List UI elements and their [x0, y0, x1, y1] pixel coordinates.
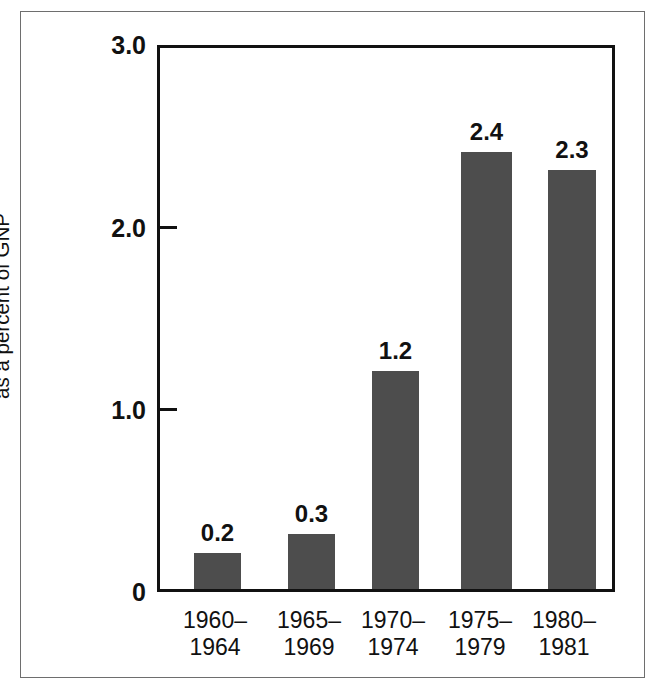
- x-label-1960-1964-line-1: 1960–: [164, 607, 266, 634]
- y-axis-tick-labels: 3.0 2.0 1.0 0: [0, 0, 146, 692]
- x-label-1960-1964-line-2: 1964: [164, 634, 266, 661]
- x-label-1980-1981-line-2: 1981: [513, 634, 615, 661]
- x-label-1980-1981: 1980– 1981: [513, 607, 615, 661]
- bar-1975-1979: [461, 152, 512, 589]
- x-label-1960-1964: 1960– 1964: [164, 607, 266, 661]
- y-tick-label-1: 1.0: [111, 398, 146, 423]
- bar-value-1960-1964: 0.2: [194, 521, 241, 545]
- bar-value-1980-1981: 2.3: [548, 138, 596, 162]
- y-tick-label-3: 3.0: [111, 33, 146, 58]
- axis-left-spine: [157, 45, 160, 592]
- y-tick-mark-2: [160, 226, 177, 229]
- y-tick-mark-1: [160, 408, 177, 411]
- bar-1970-1974: [372, 371, 419, 589]
- bar-value-1975-1979: 2.4: [461, 120, 512, 144]
- axis-bottom-rule: [157, 589, 615, 592]
- bar-value-1965-1969: 0.3: [288, 502, 335, 526]
- bar-value-1970-1974: 1.2: [372, 339, 419, 363]
- plot-area: 0.2 0.3 1.2 2.4 2.3: [157, 45, 615, 592]
- axis-right-spine: [612, 45, 615, 592]
- y-tick-label-2: 2.0: [111, 216, 146, 241]
- bar-1980-1981: [548, 170, 596, 589]
- axis-top-rule: [157, 45, 615, 48]
- x-label-1980-1981-line-1: 1980–: [513, 607, 615, 634]
- bar-1960-1964: [194, 553, 241, 589]
- chart-figure: Federal budget deficit as a percent of G…: [0, 0, 662, 692]
- y-tick-label-0: 0: [132, 580, 146, 605]
- bar-1965-1969: [288, 534, 335, 589]
